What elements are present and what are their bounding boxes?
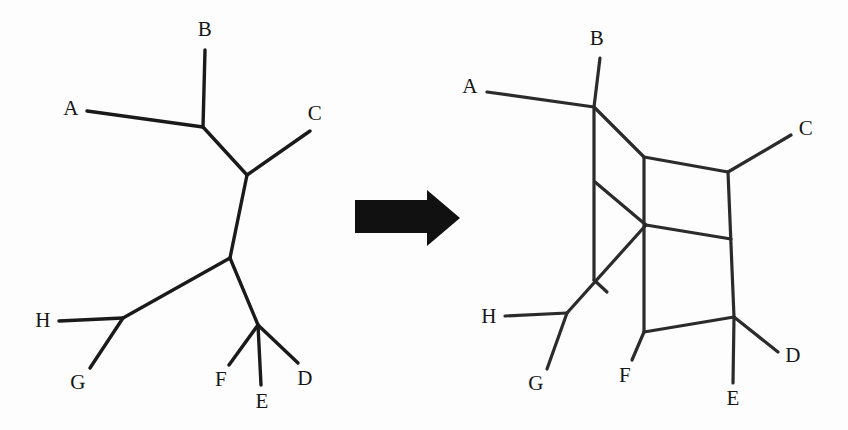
tree-edge-F-n5 (229, 325, 258, 365)
tree-taxon-label-b: B (198, 17, 212, 41)
network-edge-v5-v6 (728, 172, 734, 317)
tree-labels: ABCDEFGH (35, 17, 322, 413)
tree-diagram: ABCDEFGH (35, 17, 322, 413)
network-edge-v5-C (728, 135, 791, 172)
network-taxon-label-d: D (785, 343, 801, 367)
network-taxon-label-b: B (590, 26, 604, 50)
figure-canvas: ABCDEFGH ABCDEFGH (0, 0, 848, 430)
network-edge-v8-v9 (646, 225, 731, 239)
network-edge-v11-G (547, 313, 567, 369)
tree-taxon-label-h: H (35, 308, 51, 332)
network-edge-v11-v8 (567, 225, 646, 313)
arrow-right-icon (355, 190, 460, 246)
network-taxon-label-a: A (462, 74, 478, 98)
tree-edge-C-n2 (247, 131, 310, 175)
tree-taxon-label-f: F (215, 367, 227, 391)
network-edge-v4-F (632, 332, 644, 360)
network-taxon-label-g: G (528, 371, 544, 395)
tree-taxon-label-g: G (70, 370, 86, 394)
tree-taxon-label-e: E (255, 389, 268, 413)
tree-edge-A-n1 (87, 111, 203, 127)
network-edge-v11-H (505, 313, 567, 316)
tree-edge-n2-n3 (230, 175, 247, 258)
network-edge-v4-v6 (644, 317, 734, 332)
tree-edge-n3-n4 (123, 258, 230, 318)
network-edge-v6-D (734, 317, 778, 352)
network-edge-v6-E (733, 317, 734, 383)
network-taxon-label-e: E (726, 386, 739, 410)
transformation-arrow (355, 190, 460, 246)
tree-taxon-label-c: C (308, 101, 322, 125)
network-taxon-label-c: C (799, 116, 813, 140)
network-edges (487, 58, 791, 383)
tree-edge-E-n5 (258, 325, 261, 385)
network-edge-v7-v8 (595, 182, 646, 225)
network-edge-v3-v5 (644, 157, 728, 172)
network-edge-v1-v3 (594, 107, 644, 157)
network-diagram: ABCDEFGH (462, 26, 813, 410)
tree-edge-G-n4 (90, 318, 123, 368)
tree-edge-n1-n2 (203, 127, 247, 175)
tree-edge-n3-n5 (230, 258, 258, 325)
tree-taxon-label-a: A (63, 96, 79, 120)
tree-edges (59, 50, 310, 385)
tree-edge-B-n1 (203, 50, 205, 127)
phylogenetics-figure: ABCDEFGH ABCDEFGH (0, 0, 848, 430)
network-taxon-label-h: H (481, 304, 497, 328)
tree-taxon-label-d: D (297, 366, 313, 390)
network-edge-B-v1 (594, 58, 600, 107)
network-edge-A-v1 (487, 92, 594, 107)
network-taxon-label-f: F (619, 363, 631, 387)
tree-edge-D-n5 (258, 325, 298, 363)
tree-edge-H-n4 (59, 318, 123, 321)
